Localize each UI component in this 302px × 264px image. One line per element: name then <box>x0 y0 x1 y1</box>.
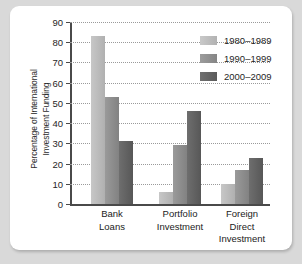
tick-mark-40 <box>66 123 70 124</box>
bar-2-1[interactable] <box>235 170 249 204</box>
category-label-2: Foreign Direct Investment <box>197 208 287 246</box>
bar-0-0[interactable] <box>91 36 105 204</box>
y-tick-label-30: 30 <box>52 138 63 149</box>
bar-0-1[interactable] <box>105 97 119 204</box>
y-tick-label-0: 0 <box>58 199 63 210</box>
legend-swatch-icon-0 <box>200 36 217 45</box>
legend-item-1[interactable]: 1990–1999 <box>200 50 292 66</box>
tick-mark-50 <box>66 103 70 104</box>
y-tick-label-90: 90 <box>52 17 63 28</box>
bar-2-0[interactable] <box>221 184 235 204</box>
bar-2-2[interactable] <box>249 158 263 205</box>
legend-swatch-icon-2 <box>200 72 217 81</box>
tick-mark-10 <box>66 184 70 185</box>
tick-mark-0 <box>66 204 70 205</box>
tick-mark-90 <box>66 22 70 23</box>
bar-1-1[interactable] <box>173 145 187 204</box>
tick-mark-70 <box>66 62 70 63</box>
bar-1-0[interactable] <box>159 192 173 204</box>
legend-item-2[interactable]: 2000–2009 <box>200 68 292 84</box>
tick-mark-80 <box>66 42 70 43</box>
legend-swatch-icon-1 <box>200 54 217 63</box>
y-tick-label-40: 40 <box>52 118 63 129</box>
bar-0-2[interactable] <box>119 141 133 204</box>
y-axis-line <box>70 22 72 204</box>
legend-label-1: 1990–1999 <box>224 53 272 64</box>
legend: 1980–19891990–19992000–2009 <box>200 32 292 86</box>
tick-mark-20 <box>66 164 70 165</box>
bar-group-0 <box>91 22 133 204</box>
bar-1-2[interactable] <box>187 111 201 204</box>
tick-mark-30 <box>66 143 70 144</box>
y-tick-label-80: 80 <box>52 37 63 48</box>
y-tick-label-70: 70 <box>52 57 63 68</box>
chart-card: Percentage of International Investment F… <box>10 6 292 250</box>
y-tick-label-60: 60 <box>52 77 63 88</box>
legend-label-2: 2000–2009 <box>224 71 272 82</box>
x-axis-line <box>70 204 270 206</box>
y-tick-label-20: 20 <box>52 158 63 169</box>
bar-group-1 <box>159 22 201 204</box>
y-tick-label-10: 10 <box>52 178 63 189</box>
legend-label-0: 1980–1989 <box>224 35 272 46</box>
y-tick-label-50: 50 <box>52 97 63 108</box>
legend-item-0[interactable]: 1980–1989 <box>200 32 292 48</box>
y-axis-title: Percentage of International Investment F… <box>16 24 46 214</box>
tick-mark-60 <box>66 83 70 84</box>
